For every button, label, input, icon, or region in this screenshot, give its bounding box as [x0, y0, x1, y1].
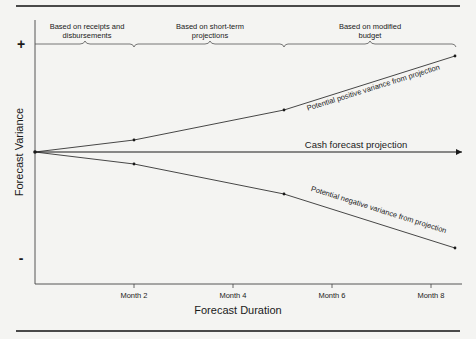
x-tick-label-month-6: Month 6	[318, 291, 345, 300]
phase-1-label-line2: disbursements	[63, 31, 112, 40]
y-positive-marker: +	[17, 36, 25, 52]
phase-1-label-line1: Based on receipts and	[50, 22, 125, 31]
phase-3-label-line2: budget	[359, 31, 383, 40]
cash-forecast-label: Cash forecast projection	[305, 139, 407, 150]
x-tick-label-month-2: Month 2	[120, 291, 147, 300]
x-tick-label-month-4: Month 4	[219, 291, 246, 300]
x-tick-label-month-8: Month 8	[417, 291, 444, 300]
phase-2-label-line1: Based on short-term	[176, 22, 244, 31]
phase-2-label-line2: projections	[192, 31, 229, 40]
phase-3-label-line1: Based on modified	[339, 22, 401, 31]
x-ticks	[134, 284, 431, 288]
positive-variance-label: Potential positive variance from project…	[306, 62, 441, 112]
negative-variance-points	[133, 163, 457, 250]
y-axis-label: Forecast Variance	[13, 108, 25, 196]
negative-variance-line	[35, 152, 455, 248]
forecast-variance-diagram: Month 2 Month 4 Month 6 Month 8 Forecast…	[0, 0, 476, 339]
negative-variance-label: Potential negative variance from project…	[310, 184, 448, 235]
phase-braces	[35, 41, 456, 47]
y-negative-marker: -	[19, 250, 24, 266]
positive-variance-line	[35, 56, 455, 152]
x-axis-label: Forecast Duration	[194, 304, 281, 316]
